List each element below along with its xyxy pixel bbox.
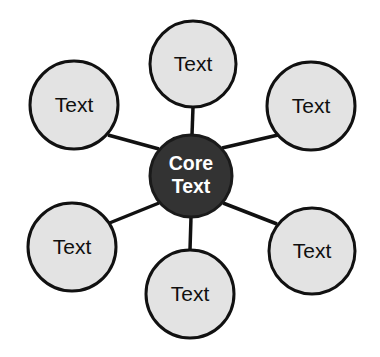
satellite-node-bottom-left[interactable]: Text	[28, 203, 116, 291]
satellite-node-bottom[interactable]: Text	[146, 250, 234, 338]
satellite-label-top: Text	[174, 52, 213, 75]
connector-bottom-left	[107, 203, 159, 224]
connector-bottom-right	[223, 203, 277, 224]
satellite-node-top-left[interactable]: Text	[30, 61, 118, 149]
connector-top-left	[108, 135, 159, 149]
connector-top	[192, 107, 193, 135]
diagram-canvas: Text Text Text Text Text Text	[0, 0, 380, 357]
satellite-label-bottom-right: Text	[293, 239, 332, 262]
core-label-line2: Text	[172, 175, 211, 197]
satellite-node-top[interactable]: Text	[150, 21, 236, 107]
satellite-label-bottom: Text	[171, 282, 210, 305]
satellite-label-top-left: Text	[55, 93, 94, 116]
core-node[interactable]: Core Text	[150, 135, 232, 217]
core-label-line1: Core	[169, 152, 214, 174]
satellite-node-top-right[interactable]: Text	[267, 62, 355, 150]
satellite-node-bottom-right[interactable]: Text	[269, 208, 355, 294]
satellite-label-top-right: Text	[292, 94, 331, 117]
connector-bottom	[190, 217, 191, 250]
hub-and-spoke-diagram: Text Text Text Text Text Text	[0, 0, 380, 357]
connector-top-right	[222, 135, 278, 148]
satellite-label-bottom-left: Text	[53, 235, 92, 258]
